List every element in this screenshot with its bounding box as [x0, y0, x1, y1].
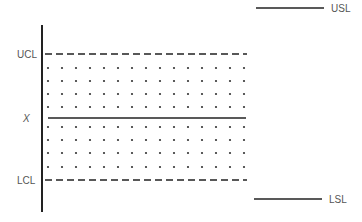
grid-dot — [201, 93, 203, 95]
grid-dot — [89, 166, 91, 168]
grid-dot — [187, 80, 189, 82]
grid-dot — [117, 139, 119, 141]
grid-dot — [229, 93, 231, 95]
center-label: X — [22, 113, 30, 124]
grid-dot — [201, 106, 203, 108]
grid-dot — [103, 106, 105, 108]
grid-dot — [145, 152, 147, 154]
grid-dot — [61, 139, 63, 141]
grid-dot — [89, 126, 91, 128]
grid-dot — [61, 152, 63, 154]
grid-dot — [215, 152, 217, 154]
grid-dot — [243, 67, 245, 69]
grid-dot — [61, 106, 63, 108]
grid-dot — [61, 80, 63, 82]
grid-dot — [117, 152, 119, 154]
grid-dot — [243, 139, 245, 141]
grid-dot — [145, 139, 147, 141]
grid-dot — [173, 166, 175, 168]
grid-dot — [103, 139, 105, 141]
grid-dot — [47, 126, 49, 128]
grid-dot — [159, 67, 161, 69]
grid-dot — [173, 67, 175, 69]
grid-dot — [47, 139, 49, 141]
control-chart-diagram: UCL X LCL USL LSL — [0, 0, 362, 222]
grid-dot — [131, 80, 133, 82]
grid-dot — [75, 106, 77, 108]
grid-dot — [47, 93, 49, 95]
grid-dot — [201, 139, 203, 141]
grid-dot — [159, 80, 161, 82]
grid-dot — [117, 106, 119, 108]
grid-dot — [131, 93, 133, 95]
grid-dot — [145, 166, 147, 168]
grid-dot — [131, 67, 133, 69]
grid-dot — [215, 93, 217, 95]
grid-dot — [89, 67, 91, 69]
grid-dot — [117, 166, 119, 168]
grid-dot — [187, 106, 189, 108]
grid-dot — [187, 126, 189, 128]
grid-dot — [103, 152, 105, 154]
grid-dot — [215, 106, 217, 108]
grid-dot — [229, 139, 231, 141]
grid-dot — [229, 80, 231, 82]
grid-dot — [75, 93, 77, 95]
grid-dot — [187, 139, 189, 141]
lcl-label: LCL — [17, 175, 36, 186]
grid-dot — [215, 139, 217, 141]
grid-dot — [47, 152, 49, 154]
grid-dot — [89, 93, 91, 95]
grid-dot — [173, 139, 175, 141]
grid-dot — [131, 126, 133, 128]
grid-dot — [229, 106, 231, 108]
grid-dot — [61, 93, 63, 95]
grid-dot — [201, 80, 203, 82]
grid-dot — [201, 126, 203, 128]
grid-dot — [243, 106, 245, 108]
grid-dot — [243, 166, 245, 168]
grid-dot — [159, 166, 161, 168]
grid-dot — [229, 126, 231, 128]
grid-dot — [89, 152, 91, 154]
grid-dot — [229, 67, 231, 69]
grid-dot — [243, 126, 245, 128]
grid-dot — [47, 67, 49, 69]
lsl-label: LSL — [329, 194, 347, 205]
grid-dot — [243, 152, 245, 154]
grid-dot — [145, 93, 147, 95]
grid-dot — [103, 126, 105, 128]
grid-dot — [61, 166, 63, 168]
grid-dot — [173, 80, 175, 82]
grid-dot — [215, 166, 217, 168]
grid-dot — [187, 67, 189, 69]
grid-dot — [89, 106, 91, 108]
grid-dot — [173, 106, 175, 108]
grid-dot — [131, 106, 133, 108]
grid-dot — [103, 67, 105, 69]
usl-label: USL — [331, 3, 351, 14]
grid-dot — [75, 126, 77, 128]
grid-dot — [103, 80, 105, 82]
grid-dot — [159, 93, 161, 95]
grid-dot — [61, 67, 63, 69]
grid-dot — [243, 93, 245, 95]
grid-dot — [117, 126, 119, 128]
grid-dot — [145, 67, 147, 69]
grid-dot — [243, 80, 245, 82]
grid-dot — [215, 80, 217, 82]
grid-dot — [47, 166, 49, 168]
grid-dot — [187, 93, 189, 95]
grid-dot — [173, 93, 175, 95]
grid-dot — [229, 166, 231, 168]
grid-dot — [103, 166, 105, 168]
grid-dot — [215, 126, 217, 128]
grid-dot — [117, 67, 119, 69]
grid-dot — [103, 93, 105, 95]
grid-dot — [75, 166, 77, 168]
grid-dot — [187, 152, 189, 154]
grid-dot — [201, 152, 203, 154]
grid-dot — [159, 152, 161, 154]
grid-dot — [117, 93, 119, 95]
grid-dot — [145, 106, 147, 108]
